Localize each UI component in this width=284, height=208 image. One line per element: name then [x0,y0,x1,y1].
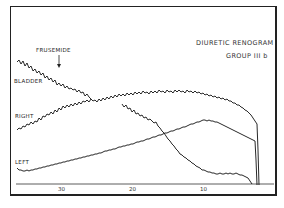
x-tick-20: 20 [129,186,136,192]
chart-plot [0,0,284,208]
right-label: RIGHT [15,113,34,119]
frusemide-label: FRUSEMIDE [36,47,71,53]
bladder-label: BLADDER [14,78,43,84]
chart-subtitle: GROUP III b [226,52,268,60]
series-right [17,90,259,185]
chart-title: DIURETIC RENOGRAM [196,39,274,47]
x-tick-10: 10 [200,186,207,192]
left-label: LEFT [15,159,29,165]
series-bladder-late [122,104,252,184]
series-left [17,120,257,185]
x-tick-30: 30 [58,186,65,192]
